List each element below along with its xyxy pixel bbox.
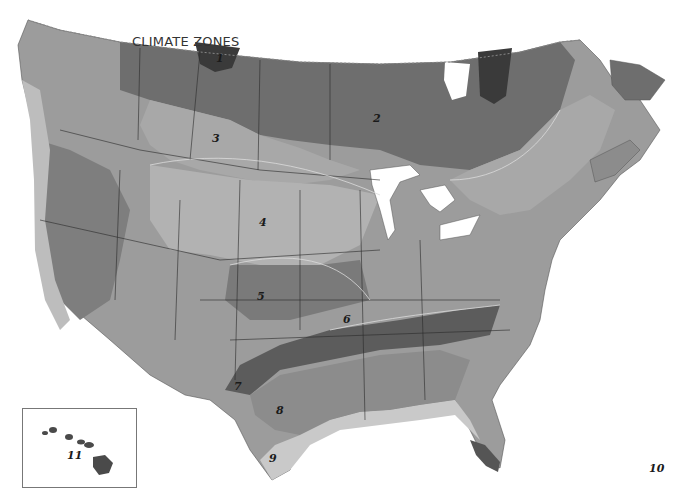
hawaii-islands-icon	[23, 409, 136, 487]
map-title: CLIMATE ZONES	[132, 34, 239, 49]
zone-label-9: 9	[269, 452, 277, 465]
zone-label-8: 8	[276, 404, 284, 417]
zone-label-11: 11	[67, 449, 82, 462]
zone-label-2: 2	[373, 112, 381, 125]
hawaii-inset: 11	[22, 408, 137, 488]
zone-label-3: 3	[212, 132, 220, 145]
zone-label-4: 4	[259, 216, 267, 229]
zone-label-6: 6	[343, 313, 351, 326]
zone-label-1: 1	[216, 52, 224, 65]
zone-label-5: 5	[257, 290, 265, 303]
zone-label-10: 10	[649, 462, 664, 475]
zone-label-7: 7	[234, 380, 242, 393]
